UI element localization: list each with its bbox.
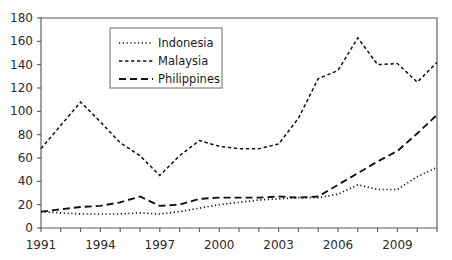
- y-tick-label: 100: [10, 104, 33, 118]
- x-tick-label: 1997: [145, 238, 176, 252]
- series-lines: [41, 38, 437, 214]
- y-axis-ticks: 020406080100120140160180: [10, 11, 41, 235]
- x-tick-label: 2000: [204, 238, 235, 252]
- line-chart: 020406080100120140160180 199119941997200…: [0, 0, 452, 260]
- legend-label-philippines: Philippines: [158, 72, 220, 86]
- x-tick-label: 2003: [263, 238, 294, 252]
- x-axis-ticks: 1991199419972000200320062009: [26, 228, 437, 252]
- y-tick-label: 120: [10, 81, 33, 95]
- y-tick-label: 60: [18, 151, 33, 165]
- y-tick-label: 0: [25, 221, 33, 235]
- legend-label-malaysia: Malaysia: [158, 54, 208, 68]
- y-tick-label: 40: [18, 174, 33, 188]
- y-tick-label: 180: [10, 11, 33, 25]
- chart-canvas: 020406080100120140160180 199119941997200…: [0, 0, 452, 260]
- x-tick-label: 1994: [85, 238, 116, 252]
- y-tick-label: 160: [10, 34, 33, 48]
- y-tick-label: 80: [18, 128, 33, 142]
- series-line-philippines: [41, 115, 437, 212]
- axis-frame: [41, 18, 437, 228]
- y-tick-label: 20: [18, 198, 33, 212]
- series-line-malaysia: [41, 38, 437, 176]
- x-tick-label: 2006: [323, 238, 354, 252]
- legend-label-indonesia: Indonesia: [158, 36, 214, 50]
- x-tick-label: 2009: [382, 238, 413, 252]
- x-tick-label: 1991: [26, 238, 57, 252]
- chart-legend: IndonesiaMalaysiaPhilippines: [110, 28, 222, 88]
- series-line-indonesia: [41, 167, 437, 214]
- y-tick-label: 140: [10, 58, 33, 72]
